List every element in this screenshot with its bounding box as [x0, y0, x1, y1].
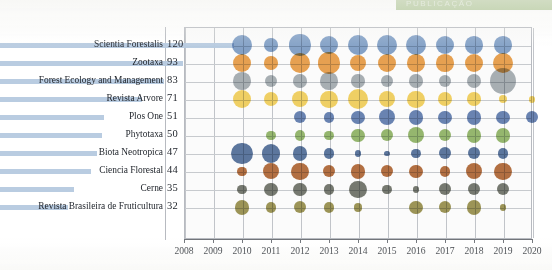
journal-label: Scientia Forestalis [0, 39, 166, 49]
bubble [436, 54, 453, 71]
row-total-value: 51 [167, 110, 189, 121]
bubble [266, 202, 277, 213]
bubble [409, 74, 422, 87]
bubble [409, 165, 422, 178]
row-total-value: 120 [167, 38, 189, 49]
row-total-value: 44 [167, 164, 189, 175]
bubble [494, 36, 511, 53]
x-tick-2014 [358, 239, 359, 243]
bubble [320, 91, 337, 108]
journal-label: Zootaxa [0, 57, 166, 67]
bubble [324, 184, 335, 195]
x-tick-2011 [271, 239, 272, 243]
bubble [498, 148, 509, 159]
bubble [350, 55, 366, 71]
bubble [438, 111, 451, 124]
bubble [529, 96, 536, 103]
journal-label: Revista Arvore [0, 93, 166, 103]
x-tick-label-2020: 2020 [511, 245, 552, 256]
bubble [237, 167, 247, 177]
bubble [351, 74, 364, 87]
bubble [354, 203, 362, 211]
x-tick-2015 [387, 239, 388, 243]
row-total-value: 83 [167, 74, 189, 85]
bubble [290, 53, 310, 73]
bubble [411, 149, 421, 159]
journal-label: Forest Ecology and Management [0, 75, 166, 85]
row-total-value: 35 [167, 182, 189, 193]
bubble [295, 130, 306, 141]
journal-label: Biota Neotropica [0, 147, 166, 157]
row-total-value: 71 [167, 92, 189, 103]
bubble [264, 183, 277, 196]
bubble [465, 36, 482, 53]
bubble [324, 202, 335, 213]
bubble [355, 150, 362, 157]
bubble [467, 92, 480, 105]
bubble [349, 181, 366, 198]
journal-label: Plos One [0, 111, 166, 121]
bubble [409, 201, 422, 214]
bubble [291, 163, 308, 180]
top-green-banner: PUBLICAÇÃO [396, 0, 552, 10]
bubble [348, 35, 368, 55]
x-tick-2018 [474, 239, 475, 243]
x-tick-2013 [329, 239, 330, 243]
bubble [235, 200, 250, 215]
bubble [377, 35, 397, 55]
bubble [324, 112, 335, 123]
bubble [496, 111, 509, 124]
bubble [467, 128, 482, 143]
bubble [494, 163, 511, 180]
row-total-value: 47 [167, 146, 189, 157]
bubble [264, 56, 277, 69]
x-tick-2012 [300, 239, 301, 243]
x-tick-2010 [242, 239, 243, 243]
bubble [293, 183, 306, 196]
bubble [264, 38, 277, 51]
bubble [407, 91, 424, 108]
bubble [351, 111, 364, 124]
row-total-value: 50 [167, 128, 189, 139]
bubble [351, 129, 364, 142]
x-tick-2008 [184, 239, 185, 243]
row-total-value: 32 [167, 200, 189, 211]
bubble [293, 74, 306, 87]
bubble [467, 200, 482, 215]
bubble [526, 111, 538, 123]
bubble [407, 54, 424, 71]
bubble [232, 35, 252, 55]
gridline-vertical-2009 [214, 28, 215, 238]
bubble [324, 148, 335, 159]
bubble [406, 35, 426, 55]
bubble [233, 72, 250, 89]
x-tick-2009 [213, 239, 214, 243]
journal-label: Revista Brasileira de Fruticultura [0, 201, 166, 211]
bubble [262, 144, 281, 163]
journal-label: Cerne [0, 183, 166, 193]
bubble [351, 164, 366, 179]
bubble [231, 143, 252, 164]
journal-label: Ciencia Florestal [0, 165, 166, 175]
bubble [413, 186, 420, 193]
bubble [440, 166, 451, 177]
bubble [324, 131, 334, 141]
banner-label: PUBLICAÇÃO [406, 0, 474, 8]
x-tick-2016 [416, 239, 417, 243]
bubble [237, 185, 247, 195]
bubble [467, 110, 482, 125]
bubble-chart-figure: PUBLICAÇÃO 20082009201020112012201320142… [0, 0, 552, 270]
bubble [384, 151, 390, 157]
row-total-value: 93 [167, 56, 189, 67]
journal-label: Phytotaxa [0, 129, 166, 139]
x-tick-2020 [532, 239, 533, 243]
bubble [318, 52, 339, 73]
bubble [382, 185, 392, 195]
bubble [496, 128, 511, 143]
bubble [320, 72, 337, 89]
x-tick-2017 [445, 239, 446, 243]
gridline-vertical-2020 [533, 28, 534, 238]
x-tick-2019 [503, 239, 504, 243]
bubble [409, 110, 424, 125]
bubble [266, 131, 276, 141]
